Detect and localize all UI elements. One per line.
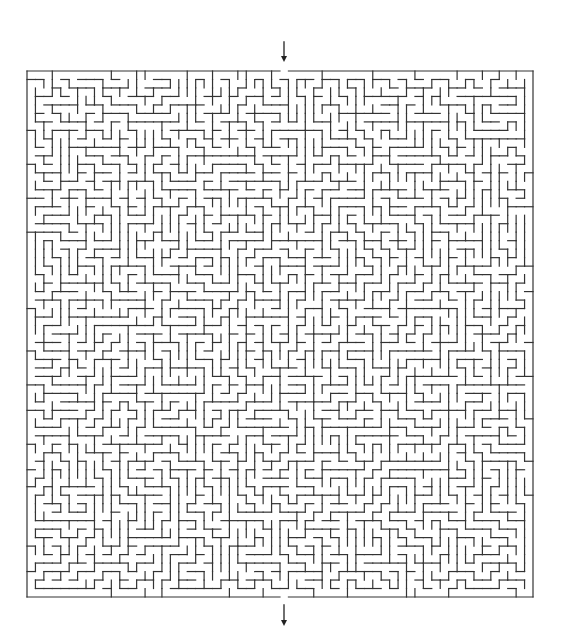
start-arrow-icon (281, 42, 287, 62)
maze-puzzle (0, 0, 562, 642)
maze-walls (27, 71, 533, 597)
end-arrow-icon (281, 605, 287, 626)
